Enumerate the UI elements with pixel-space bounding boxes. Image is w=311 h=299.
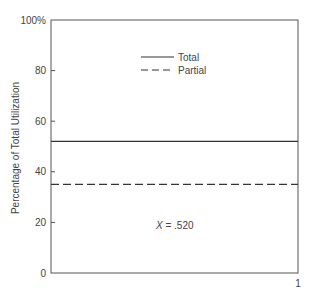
y-tick-label: 100% [20,15,46,26]
annotation-x-value: X = .520 [155,220,194,231]
plot-frame [51,20,298,273]
x-tick-label: 1 [295,278,301,289]
y-tick-label: 60 [35,116,47,127]
y-axis-title: Percentage of Total Utilization [10,82,21,214]
chart: 020406080100%1 Total Partial Percentage … [0,0,311,299]
axes: 020406080100%1 [20,15,301,290]
legend: Total Partial [141,52,206,76]
y-tick-label: 40 [35,166,47,177]
y-tick-label: 0 [40,268,46,279]
annotation-value: = .520 [163,220,194,231]
series-layer [51,141,298,184]
y-tick-label: 80 [35,65,47,76]
legend-label-partial: Partial [178,65,206,76]
y-tick-label: 20 [35,217,47,228]
legend-label-total: Total [178,52,199,63]
